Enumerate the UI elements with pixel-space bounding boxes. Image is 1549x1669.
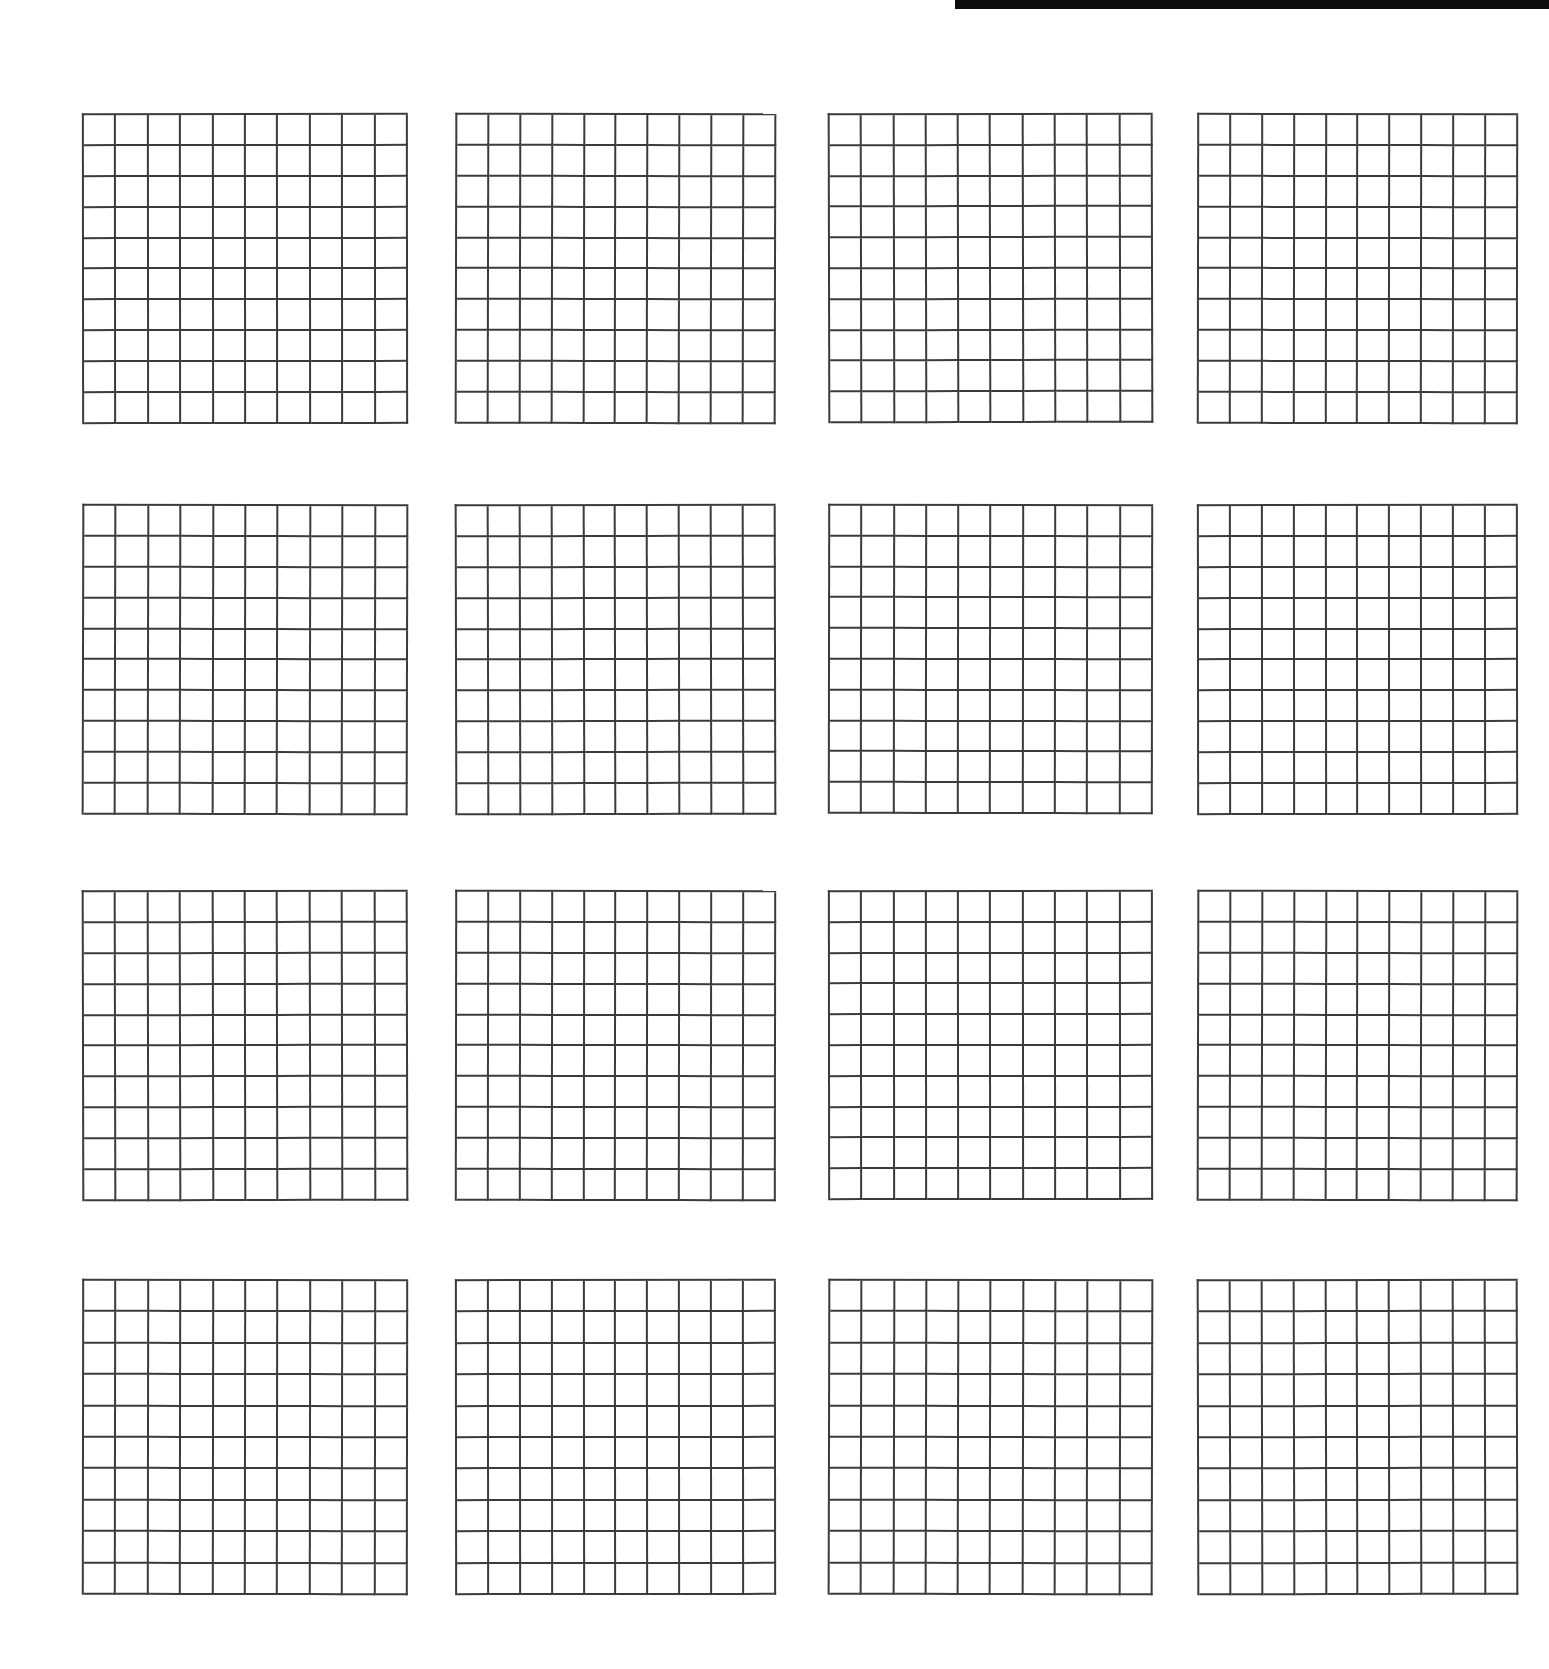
grid-cell[interactable]	[744, 985, 776, 1016]
grid-cell[interactable]	[1088, 599, 1120, 630]
grid-cell[interactable]	[116, 892, 148, 923]
grid-cell[interactable]	[1359, 753, 1391, 784]
grid-cell[interactable]	[278, 269, 310, 300]
grid-cell[interactable]	[375, 1532, 407, 1563]
grid-cell[interactable]	[343, 177, 375, 208]
grid-cell[interactable]	[279, 1170, 311, 1201]
grid-cell[interactable]	[992, 537, 1024, 568]
grid-cell[interactable]	[181, 1469, 213, 1500]
grid-cell[interactable]	[1199, 362, 1231, 393]
grid-cell[interactable]	[648, 1312, 680, 1343]
grid-cell[interactable]	[553, 599, 585, 630]
grid-cell[interactable]	[648, 1108, 680, 1139]
grid-cell[interactable]	[1120, 1532, 1152, 1563]
grid-cell[interactable]	[1390, 506, 1422, 537]
grid-cell[interactable]	[1121, 1407, 1153, 1438]
grid-cell[interactable]	[343, 1108, 375, 1139]
grid-cell[interactable]	[84, 1532, 116, 1563]
grid-cell[interactable]	[1024, 176, 1056, 207]
grid-cell[interactable]	[213, 1501, 245, 1532]
grid-cell[interactable]	[246, 239, 278, 270]
grid-cell[interactable]	[1088, 1077, 1120, 1108]
grid-cell[interactable]	[744, 332, 776, 363]
grid-cell[interactable]	[992, 1312, 1024, 1343]
grid-cell[interactable]	[1199, 238, 1231, 269]
grid-cell[interactable]	[214, 1281, 246, 1312]
grid-cell[interactable]	[84, 537, 116, 568]
grid-cell[interactable]	[712, 629, 744, 660]
grid-cell[interactable]	[457, 954, 489, 985]
grid-cell[interactable]	[1294, 1312, 1326, 1343]
grid-cell[interactable]	[1391, 892, 1423, 923]
grid-cell[interactable]	[213, 923, 245, 954]
grid-cell[interactable]	[616, 1407, 648, 1438]
grid-cell[interactable]	[553, 1108, 585, 1139]
grid-cell[interactable]	[712, 1139, 744, 1170]
grid-cell[interactable]	[1486, 393, 1518, 424]
grid-cell[interactable]	[959, 1015, 991, 1046]
grid-cell[interactable]	[311, 722, 343, 753]
grid-cell[interactable]	[1263, 269, 1295, 300]
grid-cell[interactable]	[1088, 1046, 1120, 1077]
grid-cell[interactable]	[246, 1344, 278, 1375]
grid-cell[interactable]	[1121, 691, 1153, 722]
grid-cell[interactable]	[489, 1281, 521, 1312]
grid-cell[interactable]	[1231, 722, 1263, 753]
grid-cell[interactable]	[830, 1532, 862, 1563]
grid-cell[interactable]	[744, 753, 776, 784]
grid-cell[interactable]	[213, 115, 245, 146]
grid-cell[interactable]	[1454, 1281, 1486, 1312]
grid-cell[interactable]	[862, 1532, 894, 1563]
grid-cell[interactable]	[311, 1532, 343, 1563]
grid-cell[interactable]	[457, 1375, 489, 1406]
grid-cell[interactable]	[553, 892, 585, 923]
grid-cell[interactable]	[1390, 362, 1422, 393]
grid-cell[interactable]	[1295, 208, 1327, 239]
grid-cell[interactable]	[1024, 1108, 1056, 1139]
grid-cell[interactable]	[311, 300, 343, 331]
grid-cell[interactable]	[521, 753, 553, 784]
grid-cell[interactable]	[927, 722, 959, 753]
grid-cell[interactable]	[521, 599, 553, 630]
grid-cell[interactable]	[278, 630, 310, 661]
grid-cell[interactable]	[552, 537, 584, 568]
grid-cell[interactable]	[521, 892, 553, 923]
grid-cell[interactable]	[310, 892, 342, 923]
grid-cell[interactable]	[553, 630, 585, 661]
grid-cell[interactable]	[584, 362, 616, 393]
grid-cell[interactable]	[1295, 269, 1327, 300]
grid-cell[interactable]	[991, 1407, 1023, 1438]
grid-cell[interactable]	[1359, 115, 1391, 146]
grid-cell[interactable]	[149, 331, 181, 362]
grid-cell[interactable]	[311, 1501, 343, 1532]
grid-cell[interactable]	[149, 1047, 181, 1078]
grid-cell[interactable]	[311, 1170, 343, 1201]
grid-cell[interactable]	[552, 393, 584, 424]
grid-cell[interactable]	[489, 784, 521, 815]
grid-cell[interactable]	[1231, 1438, 1263, 1469]
grid-cell[interactable]	[680, 691, 712, 722]
grid-cell[interactable]	[680, 506, 712, 537]
grid-cell[interactable]	[712, 1563, 744, 1594]
grid-cell[interactable]	[648, 1047, 680, 1078]
grid-cell[interactable]	[1199, 1438, 1231, 1469]
grid-cell[interactable]	[1056, 1046, 1088, 1077]
grid-cell[interactable]	[181, 331, 213, 362]
grid-cell[interactable]	[310, 784, 342, 815]
grid-cell[interactable]	[1024, 923, 1056, 954]
grid-cell[interactable]	[927, 1281, 959, 1312]
grid-cell[interactable]	[584, 1312, 616, 1343]
grid-cell[interactable]	[584, 1139, 616, 1170]
grid-cell[interactable]	[680, 393, 712, 424]
grid-cell[interactable]	[457, 568, 489, 599]
grid-cell[interactable]	[1295, 1532, 1327, 1563]
grid-cell[interactable]	[1486, 629, 1518, 660]
grid-cell[interactable]	[343, 1438, 375, 1469]
grid-cell[interactable]	[1262, 1281, 1294, 1312]
grid-cell[interactable]	[1390, 1375, 1422, 1406]
grid-cell[interactable]	[1231, 177, 1263, 208]
grid-cell[interactable]	[1486, 1047, 1518, 1078]
grid-cell[interactable]	[181, 599, 213, 630]
grid-cell[interactable]	[648, 1438, 680, 1469]
grid-cell[interactable]	[343, 331, 375, 362]
